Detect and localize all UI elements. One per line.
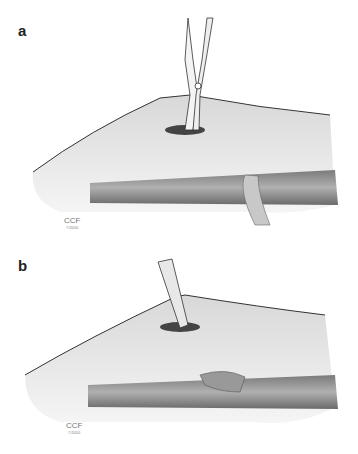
panel-a-illustration [0,0,358,227]
watermark: CCF ©2010 [66,422,82,435]
panel-b: b CCF ©2010 [0,227,358,454]
panel-label: a [18,22,26,39]
panel-label: b [18,257,27,274]
panel-b-illustration [0,227,358,454]
panel-a: a CCF ©2010 [0,0,358,227]
